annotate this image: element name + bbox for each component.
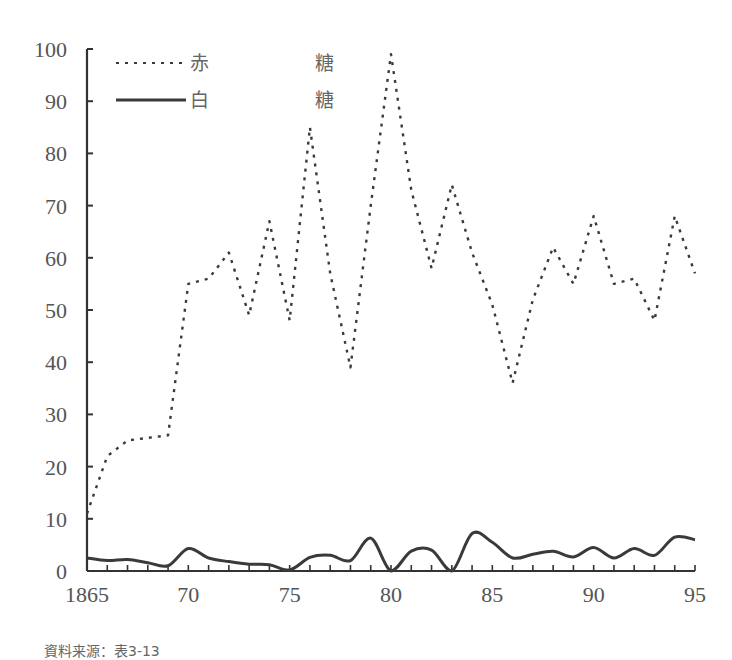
y-tick-label: 90	[45, 89, 67, 114]
x-tick-label: 70	[177, 582, 199, 607]
series-lines	[87, 54, 695, 571]
x-tick-label: 85	[481, 582, 503, 607]
source-note: 資料来源：表3-13	[44, 640, 160, 660]
x-tick-label: 75	[279, 582, 301, 607]
legend: 赤 糖 白 糖	[116, 52, 334, 111]
legend-label-white-sugar-right: 糖	[315, 89, 334, 111]
legend-label-red-sugar-right: 糖	[315, 52, 334, 74]
y-tick-label: 30	[45, 402, 67, 427]
y-tick-label: 20	[45, 455, 67, 480]
legend-label-red-sugar-left: 赤	[190, 52, 209, 74]
y-axis-ticks: 0102030405060708090100	[34, 37, 93, 584]
axes	[87, 49, 695, 571]
y-tick-label: 100	[34, 37, 67, 62]
y-tick-label: 10	[45, 507, 67, 532]
x-tick-label: 90	[583, 582, 605, 607]
x-tick-label: 80	[380, 582, 402, 607]
x-tick-label: 95	[684, 582, 706, 607]
series-red-sugar-line	[87, 54, 695, 513]
legend-label-white-sugar-left: 白	[190, 89, 209, 111]
x-tick-label: 1865	[65, 582, 109, 607]
y-tick-label: 0	[56, 559, 67, 584]
y-tick-label: 60	[45, 246, 67, 271]
y-tick-label: 40	[45, 350, 67, 375]
y-tick-label: 80	[45, 141, 67, 166]
y-tick-label: 70	[45, 194, 67, 219]
y-tick-label: 50	[45, 298, 67, 323]
